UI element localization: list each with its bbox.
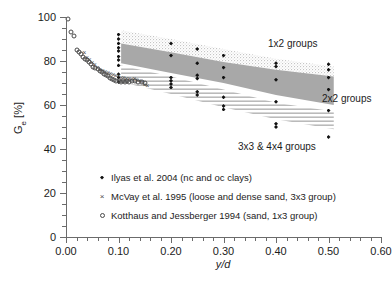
y-tick-minor	[62, 171, 66, 172]
legend-row: Ilyas et al. 2004 (nc and oc clays)	[96, 168, 336, 187]
x-tick-major	[224, 237, 225, 243]
bands-svg	[0, 0, 392, 287]
data-point-open-circle	[142, 81, 147, 86]
y-axis-title: Ge [%]	[12, 102, 27, 134]
legend-row: Kotthaus and Jessberger 1994 (sand, 1x3 …	[96, 206, 336, 225]
x-tick-major	[66, 237, 67, 243]
y-tick-minor	[62, 215, 66, 216]
x-tick-major	[119, 237, 120, 243]
x-tick-minor	[266, 237, 267, 241]
x-tick-minor	[203, 237, 204, 241]
y-tick-major	[60, 17, 66, 18]
y-tick-minor	[62, 28, 66, 29]
cross-icon: ×	[100, 193, 105, 201]
x-tick-minor	[234, 237, 235, 241]
legend-symbol-cross: ×	[96, 193, 108, 201]
y-tick-label: 20	[44, 187, 56, 199]
x-tick-label: 0.20	[160, 245, 181, 257]
y-tick-major	[60, 61, 66, 62]
x-tick-label: 0.60	[370, 245, 391, 257]
y-tick-minor	[62, 116, 66, 117]
legend-symbol-filled-diamond	[96, 176, 108, 180]
x-tick-minor	[108, 237, 109, 241]
filled-diamond-icon	[100, 176, 104, 180]
legend-label: McVay et al. 1995 (loose and dense sand,…	[111, 191, 336, 202]
y-tick-major	[60, 193, 66, 194]
y-axis-title-base: G	[12, 125, 24, 134]
x-tick-minor	[371, 237, 372, 241]
y-tick-minor	[62, 50, 66, 51]
y-tick-minor	[62, 83, 66, 84]
x-tick-minor	[360, 237, 361, 241]
y-tick-minor	[62, 127, 66, 128]
x-tick-major	[171, 237, 172, 243]
y-tick-minor	[62, 160, 66, 161]
y-tick-minor	[62, 72, 66, 73]
x-tick-minor	[287, 237, 288, 241]
y-tick-minor	[62, 94, 66, 95]
y-axis-title-subscript: e	[19, 121, 28, 125]
y-tick-label: 60	[44, 99, 56, 111]
x-tick-minor	[129, 237, 130, 241]
legend-label: Ilyas et al. 2004 (nc and oc clays)	[111, 172, 252, 183]
legend-row: ×McVay et al. 1995 (loose and dense sand…	[96, 187, 336, 206]
x-tick-major	[329, 237, 330, 243]
x-tick-minor	[308, 237, 309, 241]
x-tick-label: 0.10	[108, 245, 129, 257]
legend-symbol-open-circle	[96, 213, 108, 218]
y-tick-minor	[62, 138, 66, 139]
y-tick-minor	[62, 226, 66, 227]
x-tick-minor	[182, 237, 183, 241]
y-axis-title-unit: [%]	[12, 102, 24, 121]
y-axis-line	[66, 17, 67, 238]
annotation-1x2-groups: 1x2 groups	[268, 38, 317, 49]
x-tick-minor	[350, 237, 351, 241]
x-tick-minor	[161, 237, 162, 241]
legend-label: Kotthaus and Jessberger 1994 (sand, 1x3 …	[111, 210, 318, 221]
x-tick-minor	[150, 237, 151, 241]
x-tick-minor	[140, 237, 141, 241]
x-tick-minor	[318, 237, 319, 241]
annotation-3x3-4x4-groups: 3x3 & 4x4 groups	[238, 141, 316, 152]
x-axis-title: y/d	[216, 258, 231, 270]
x-tick-label: 0.50	[318, 245, 339, 257]
x-tick-minor	[297, 237, 298, 241]
y-tick-label: 100	[38, 11, 56, 23]
x-tick-label: 0.40	[265, 245, 286, 257]
x-tick-minor	[213, 237, 214, 241]
y-tick-minor	[62, 39, 66, 40]
y-tick-major	[60, 105, 66, 106]
y-tick-label: 0	[50, 231, 56, 243]
y-tick-label: 80	[44, 55, 56, 67]
x-tick-minor	[339, 237, 340, 241]
x-tick-minor	[98, 237, 99, 241]
x-tick-minor	[87, 237, 88, 241]
x-tick-minor	[255, 237, 256, 241]
x-tick-major	[381, 237, 382, 243]
x-tick-minor	[77, 237, 78, 241]
y-tick-label: 40	[44, 143, 56, 155]
annotation-2x2-groups: 2x2 groups	[322, 93, 371, 104]
x-tick-minor	[245, 237, 246, 241]
x-tick-major	[276, 237, 277, 243]
y-tick-minor	[62, 182, 66, 183]
y-tick-major	[60, 149, 66, 150]
x-tick-label: 0.00	[55, 245, 76, 257]
x-tick-minor	[192, 237, 193, 241]
y-tick-minor	[62, 204, 66, 205]
open-circle-icon	[100, 213, 105, 218]
x-tick-label: 0.30	[213, 245, 234, 257]
chart-legend: Ilyas et al. 2004 (nc and oc clays)×McVa…	[96, 168, 336, 225]
data-point-open-circle	[71, 33, 76, 38]
chart-figure: ××××××××××××××××××××××××× 020406080100 0…	[0, 0, 392, 287]
